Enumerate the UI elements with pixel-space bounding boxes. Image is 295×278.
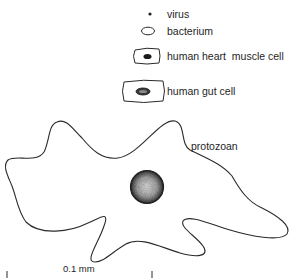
gut-cell-icon xyxy=(123,80,165,102)
heart-muscle-cell-icon xyxy=(134,48,161,64)
scale-bar-label: 0.1 mm xyxy=(63,263,95,275)
size-comparison-diagram xyxy=(0,0,295,278)
protozoan-label: protozoan xyxy=(191,140,238,152)
legend-label-gut-cell: human gut cell xyxy=(167,85,235,97)
legend-label-bacterium: bacterium xyxy=(167,25,213,37)
legend-label-heart-muscle-cell: human heart muscle cell xyxy=(167,50,284,62)
protozoan-nucleus xyxy=(131,171,164,204)
bacterium-icon xyxy=(142,27,155,35)
legend-label-virus: virus xyxy=(167,8,189,20)
virus-icon xyxy=(148,12,151,15)
protozoan-icon xyxy=(5,121,288,262)
